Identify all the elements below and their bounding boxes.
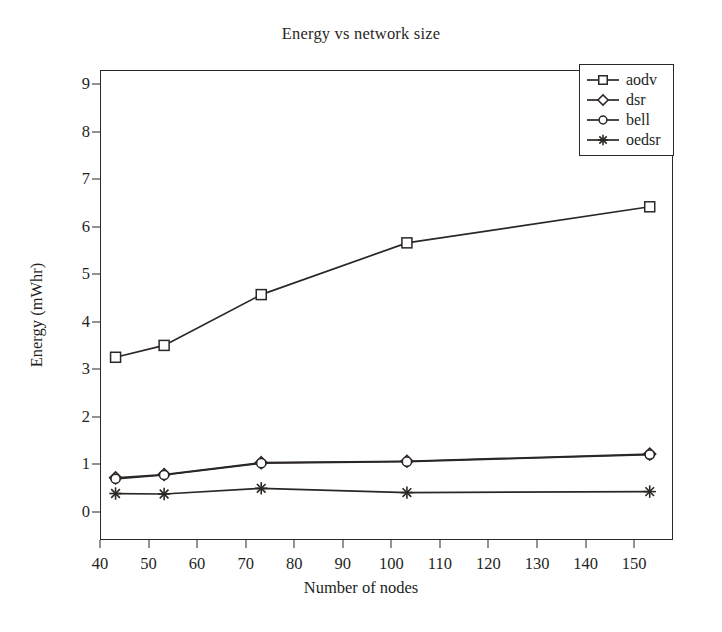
y-tick-label: 6 xyxy=(82,217,90,237)
data-point-square-marker xyxy=(256,290,266,300)
legend-marker-asterisk-icon xyxy=(586,132,620,148)
legend-marker-square-icon xyxy=(586,72,620,88)
x-tick-label: 120 xyxy=(476,554,501,574)
y-tick-label: 3 xyxy=(82,359,90,379)
y-tick-label: 0 xyxy=(82,502,90,522)
x-tick-label: 130 xyxy=(525,554,550,574)
x-tick-mark xyxy=(585,540,586,548)
x-tick-mark xyxy=(439,540,440,548)
y-tick-mark xyxy=(92,321,100,322)
legend-marker-circle-icon xyxy=(586,112,620,128)
legend-label: dsr xyxy=(626,92,646,108)
data-point-diamond-marker xyxy=(598,95,608,105)
y-tick-label: 2 xyxy=(82,407,90,427)
x-tick-label: 140 xyxy=(573,554,598,574)
y-tick-mark xyxy=(92,179,100,180)
y-tick-label: 1 xyxy=(82,454,90,474)
y-axis-title: Energy (mWhr) xyxy=(27,115,47,515)
series-line-aodv xyxy=(116,207,650,357)
y-tick-label: 4 xyxy=(82,312,90,332)
x-tick-mark xyxy=(537,540,538,548)
data-point-asterisk-marker xyxy=(644,485,656,497)
series-line-oedsr xyxy=(116,488,650,494)
legend-label: aodv xyxy=(626,72,657,88)
legend-item-bell: bell xyxy=(586,110,666,130)
data-point-asterisk-marker xyxy=(401,486,413,498)
y-tick-mark xyxy=(92,84,100,85)
x-tick-mark xyxy=(100,540,101,548)
data-point-circle-marker xyxy=(402,457,411,466)
data-point-square-marker xyxy=(402,238,412,248)
y-tick-mark xyxy=(92,131,100,132)
plot-area: aodvdsrbelloedsr xyxy=(100,70,673,540)
y-tick-mark xyxy=(92,369,100,370)
x-tick-mark xyxy=(634,540,635,548)
x-tick-mark xyxy=(342,540,343,548)
x-tick-label: 80 xyxy=(286,554,303,574)
y-tick-label: 8 xyxy=(82,122,90,142)
y-tick-label: 7 xyxy=(82,169,90,189)
x-tick-label: 90 xyxy=(335,554,352,574)
chart-title: Energy vs network size xyxy=(0,24,722,44)
legend-marker-diamond-icon xyxy=(586,92,620,108)
x-axis-tick-labels: 405060708090100110120130140150 xyxy=(100,540,673,580)
data-point-square-marker xyxy=(645,202,655,212)
data-point-square-marker xyxy=(159,340,169,350)
data-point-square-marker xyxy=(111,352,121,362)
x-tick-label: 110 xyxy=(428,554,452,574)
chart-figure: Energy vs network size Energy (mWhr) 012… xyxy=(0,0,722,632)
y-tick-label: 9 xyxy=(82,74,90,94)
legend-label: oedsr xyxy=(626,132,661,148)
x-tick-mark xyxy=(197,540,198,548)
data-point-asterisk-marker xyxy=(255,482,267,494)
x-tick-mark xyxy=(245,540,246,548)
data-point-circle-marker xyxy=(257,459,266,468)
data-point-asterisk-marker xyxy=(598,135,609,146)
data-point-asterisk-marker xyxy=(109,487,121,499)
data-point-circle-marker xyxy=(160,470,169,479)
y-tick-label: 5 xyxy=(82,264,90,284)
x-tick-mark xyxy=(391,540,392,548)
data-point-asterisk-marker xyxy=(158,488,170,500)
x-tick-mark xyxy=(148,540,149,548)
data-point-square-marker xyxy=(599,76,608,85)
y-tick-mark xyxy=(92,511,100,512)
x-tick-label: 150 xyxy=(622,554,647,574)
legend-label: bell xyxy=(626,112,650,128)
x-tick-mark xyxy=(294,540,295,548)
y-tick-mark xyxy=(92,226,100,227)
x-tick-label: 100 xyxy=(379,554,404,574)
x-tick-mark xyxy=(488,540,489,548)
x-tick-label: 50 xyxy=(140,554,157,574)
data-point-circle-marker xyxy=(599,116,607,124)
legend-item-dsr: dsr xyxy=(586,90,666,110)
x-tick-label: 60 xyxy=(189,554,206,574)
chart-legend: aodvdsrbelloedsr xyxy=(579,64,674,156)
legend-item-aodv: aodv xyxy=(586,70,666,90)
y-axis-tick-labels: 0123456789 xyxy=(60,70,100,540)
y-tick-mark xyxy=(92,464,100,465)
x-tick-label: 70 xyxy=(237,554,254,574)
data-point-circle-marker xyxy=(111,474,120,483)
y-tick-mark xyxy=(92,416,100,417)
x-tick-label: 40 xyxy=(92,554,109,574)
y-tick-mark xyxy=(92,274,100,275)
x-axis-title: Number of nodes xyxy=(0,578,722,598)
series-line-bell xyxy=(116,455,650,479)
data-point-circle-marker xyxy=(645,450,654,459)
legend-item-oedsr: oedsr xyxy=(586,130,666,150)
